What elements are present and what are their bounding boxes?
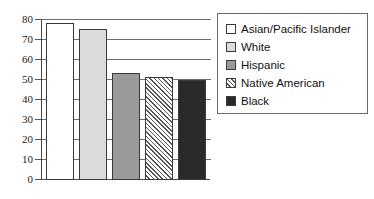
legend-swatch-icon <box>226 78 236 88</box>
legend-swatch-icon <box>226 60 236 70</box>
y-tick-label-80: 80 <box>0 14 33 25</box>
legend-item-hispanic: Hispanic <box>226 56 363 74</box>
y-tick-label-70: 70 <box>0 34 33 45</box>
legend-items: Asian/Pacific Islander White Hispanic Na… <box>226 20 363 110</box>
y-tick-label-50: 50 <box>0 74 33 85</box>
y-tick-label-0: 0 <box>0 174 33 185</box>
bar-black <box>178 80 206 180</box>
y-axis-tick-labels: 80 70 60 50 40 30 20 10 0 <box>0 0 33 199</box>
bars-layer <box>42 19 211 180</box>
bar-hispanic <box>112 73 140 180</box>
y-tick-label-40: 40 <box>0 94 33 105</box>
legend-item-native-american: Native American <box>226 74 363 92</box>
legend-item-asian-pacific-islander: Asian/Pacific Islander <box>226 20 363 38</box>
bar-asian-pacific-islander <box>46 23 74 180</box>
y-tick-label-60: 60 <box>0 54 33 65</box>
bar-native-american <box>145 77 173 180</box>
y-tick-label-20: 20 <box>0 134 33 145</box>
legend-swatch-icon <box>226 24 236 34</box>
legend-item-white: White <box>226 38 363 56</box>
legend: Asian/Pacific Islander White Hispanic Na… <box>217 13 368 114</box>
plot-axes-frame <box>41 19 210 180</box>
legend-swatch-icon <box>226 42 236 52</box>
legend-label: Native American <box>241 77 325 90</box>
legend-item-black: Black <box>226 92 363 110</box>
legend-label: White <box>241 41 270 54</box>
legend-swatch-icon <box>226 96 236 106</box>
bar-white <box>79 29 107 180</box>
y-tick-label-30: 30 <box>0 114 33 125</box>
plot-region: 80 70 60 50 40 30 20 10 0 <box>0 0 215 199</box>
legend-label: Hispanic <box>241 59 285 72</box>
legend-label: Asian/Pacific Islander <box>241 23 351 36</box>
bar-chart: 80 70 60 50 40 30 20 10 0 <box>0 0 374 199</box>
y-tick-label-10: 10 <box>0 154 33 165</box>
legend-label: Black <box>241 95 269 108</box>
